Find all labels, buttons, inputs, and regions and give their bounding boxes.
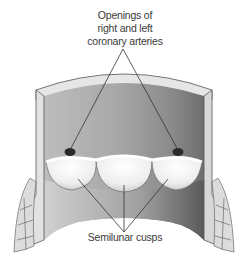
label-line: Openings of xyxy=(70,9,180,22)
myocardium-left xyxy=(14,178,36,252)
coronary-openings-label: Openings of right and left coronary arte… xyxy=(70,9,180,48)
semilunar-cusps-label: Semilunar cusps xyxy=(70,231,180,244)
label-line: right and left xyxy=(70,22,180,35)
myocardium-right xyxy=(212,178,234,252)
label-line: coronary arteries xyxy=(70,35,180,48)
